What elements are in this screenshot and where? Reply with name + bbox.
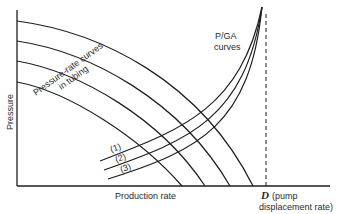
pump-performance-diagram: Pressure Production rate Pressure-rate c… <box>0 0 346 214</box>
pga-curve-3 <box>108 7 262 179</box>
tubing-curve-4 <box>17 82 182 186</box>
tubing-label-line1: Pressure-rate curves <box>31 40 105 97</box>
pga-curve-label-3: (3) <box>119 161 133 174</box>
d-label-line1: (pump <box>272 191 298 201</box>
d-label-line2: displacement rate) <box>259 202 333 212</box>
pga-label-line1: P/GA <box>215 31 237 41</box>
y-axis-label: Pressure <box>5 94 15 130</box>
tubing-curves-label: Pressure-rate curves in tubing <box>31 40 111 106</box>
pga-label-line2: curves <box>214 42 241 52</box>
pga-curve-2 <box>104 7 262 170</box>
x-axis-label: Production rate <box>115 191 176 201</box>
d-symbol: D <box>260 189 269 201</box>
